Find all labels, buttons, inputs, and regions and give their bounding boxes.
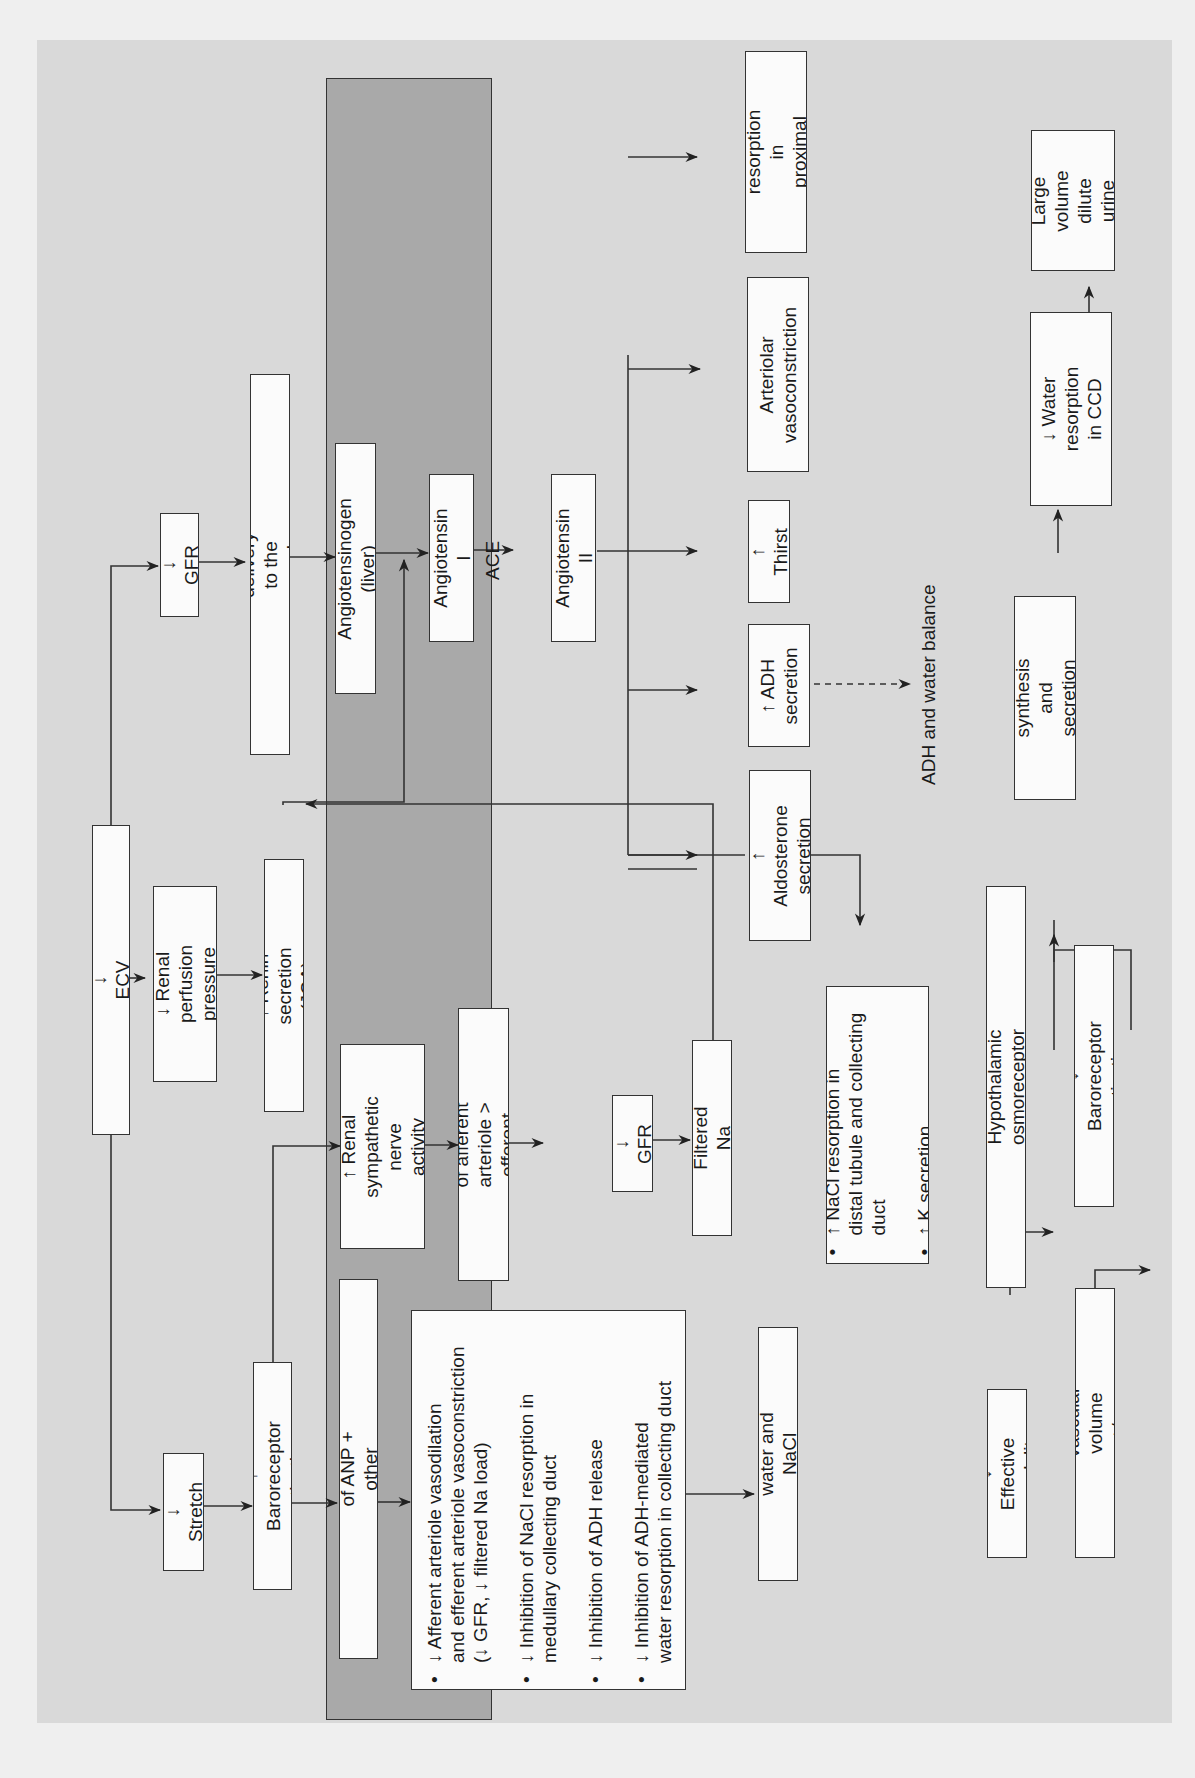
anp-effect-item: ↓ Afferent arteriole vasodilation and ef… xyxy=(422,1315,491,1685)
anp-effects-list: ↓ Afferent arteriole vasodilation and ef… xyxy=(411,1315,686,1685)
angiotensin-1-label: Angiotensin I xyxy=(429,508,474,607)
stretch-label: ↓ Stretch xyxy=(163,1482,204,1542)
constriction-box: Constriction of afferent arteriole > eff… xyxy=(458,1008,509,1281)
nacl-proximal-box: ↑ NaCl resorption in proximal tubule xyxy=(745,51,807,253)
renin-box: ↑ Renin secretion (JGA) xyxy=(264,859,304,1112)
nacl-macula-box: ↓ NaCl delivery to the macula densa xyxy=(250,374,290,755)
vascular-volume-box: ↑ Vascular volume +/or pressure xyxy=(1075,1288,1115,1558)
renal-perfusion-label: ↓ Renal perfusion pressure xyxy=(153,945,217,1023)
baroreceptor-label: ↑ Baroreceptor activation xyxy=(253,1421,292,1531)
renal-perfusion-box: ↓ Renal perfusion pressure xyxy=(153,886,217,1082)
arteriolar-label: Arteriolar vasoconstriction xyxy=(755,306,801,442)
effective-osmolality-label: ↓ Effective osmolality xyxy=(987,1431,1027,1515)
anp-effect-item: ↓ Inhibition of ADH-mediated water resor… xyxy=(629,1315,675,1685)
renal-sympathetic-label: ↑ Renal sympathetic nerve activity xyxy=(340,1096,425,1197)
arteriolar-box: Arteriolar vasoconstriction xyxy=(747,277,809,472)
vascular-volume-label: ↑ Vascular volume +/or pressure xyxy=(1075,1386,1115,1460)
baroreceptor-activation-label: ↓ Baroreceptor activation xyxy=(1074,1021,1114,1131)
renin-label: ↑ Renin secretion (JGA) xyxy=(264,947,304,1024)
ecv-label: ↓ ECV xyxy=(92,960,130,999)
anp-effect-item: ↓ Inhibition of NaCl resorption in medul… xyxy=(514,1315,560,1685)
gfr-top-box: ↓ GFR xyxy=(160,513,199,617)
angiotensin-1-box: Angiotensin I xyxy=(429,474,474,642)
hypothalamic-box: ↓ Hypothalamic osmoreceptor stimulation xyxy=(986,886,1026,1288)
thirst-box: ↑ Thirst xyxy=(748,500,790,603)
renal-water-label: ↑ Renal water and NaCl resorption xyxy=(758,1412,798,1496)
baroreceptor-activation-box: ↓ Baroreceptor activation xyxy=(1074,945,1114,1207)
angiotensinogen-box: Angiotensinogen (liver) xyxy=(335,443,376,694)
anp-effects-box: ↓ Afferent arteriole vasodilation and ef… xyxy=(411,1310,686,1690)
nacl-distal-item: ↑ K secretion xyxy=(912,993,929,1258)
renal-sympathetic-box: ↑ Renal sympathetic nerve activity xyxy=(340,1044,425,1249)
adh-synthesis-box: ↓ ADH synthesis and secretion + ↓ thirst xyxy=(1014,596,1076,800)
gfr-mid-box: ↓ GFR xyxy=(612,1095,653,1192)
nacl-distal-list: ↑ NaCl resorption in distal tubule and c… xyxy=(826,993,929,1258)
anp-release-label: ↓ Release of ANP + other natriuretic pep… xyxy=(339,1427,378,1510)
adh-panel-title: ADH and water balance xyxy=(918,584,940,785)
constriction-label: Constriction of afferent arteriole > eff… xyxy=(458,1094,509,1194)
water-resorption-label: ↓ Water resorption in CCD xyxy=(1037,367,1106,452)
nacl-distal-box: ↑ NaCl resorption in distal tubule and c… xyxy=(826,986,929,1264)
angiotensin-2-label: Angiotensin II xyxy=(551,508,596,607)
gfr-top-label: ↓ GFR xyxy=(160,545,199,585)
adh-synthesis-label: ↓ ADH synthesis and secretion + ↓ thirst xyxy=(1014,658,1076,737)
effective-osmolality-box: ↓ Effective osmolality xyxy=(987,1389,1027,1558)
dilute-urine-box: Large volume dilute urine xyxy=(1031,130,1115,271)
angiotensinogen-label: Angiotensinogen (liver) xyxy=(335,498,376,640)
nacl-macula-label: ↓ NaCl delivery to the macula densa xyxy=(250,532,290,597)
thirst-label: ↑ Thirst xyxy=(748,528,790,576)
filtered-na-label: ↑ Filtered Na load xyxy=(692,1106,732,1169)
stretch-box: ↓ Stretch xyxy=(163,1453,204,1571)
filtered-na-box: ↑ Filtered Na load xyxy=(692,1040,732,1236)
ace-label: ACE xyxy=(482,541,504,580)
aldosterone-box: ↑ Aldosterone secretion xyxy=(749,770,811,941)
baroreceptor-box: ↑ Baroreceptor activation xyxy=(253,1362,292,1590)
water-resorption-box: ↓ Water resorption in CCD xyxy=(1030,312,1112,506)
hypothalamic-label: ↓ Hypothalamic osmoreceptor stimulation xyxy=(986,1029,1026,1145)
angiotensin-2-box: Angiotensin II xyxy=(551,474,596,642)
adh-secretion-box: ↑ ADH secretion xyxy=(748,624,810,747)
ecv-box: ↓ ECV xyxy=(92,825,130,1135)
anp-release-box: ↓ Release of ANP + other natriuretic pep… xyxy=(339,1279,378,1659)
gfr-mid-label: ↓ GFR xyxy=(612,1123,653,1163)
aldosterone-label: ↑ Aldosterone secretion xyxy=(749,805,811,906)
nacl-proximal-label: ↑ NaCl resorption in proximal tubule xyxy=(745,110,807,194)
dilute-urine-label: Large volume dilute urine xyxy=(1031,170,1115,231)
adh-secretion-label: ↑ ADH secretion xyxy=(756,647,802,724)
nacl-distal-item: ↑ NaCl resorption in distal tubule and c… xyxy=(826,993,889,1258)
anp-effect-item: ↓ Inhibition of ADH release xyxy=(583,1315,606,1685)
renal-water-box: ↑ Renal water and NaCl resorption xyxy=(758,1327,798,1581)
